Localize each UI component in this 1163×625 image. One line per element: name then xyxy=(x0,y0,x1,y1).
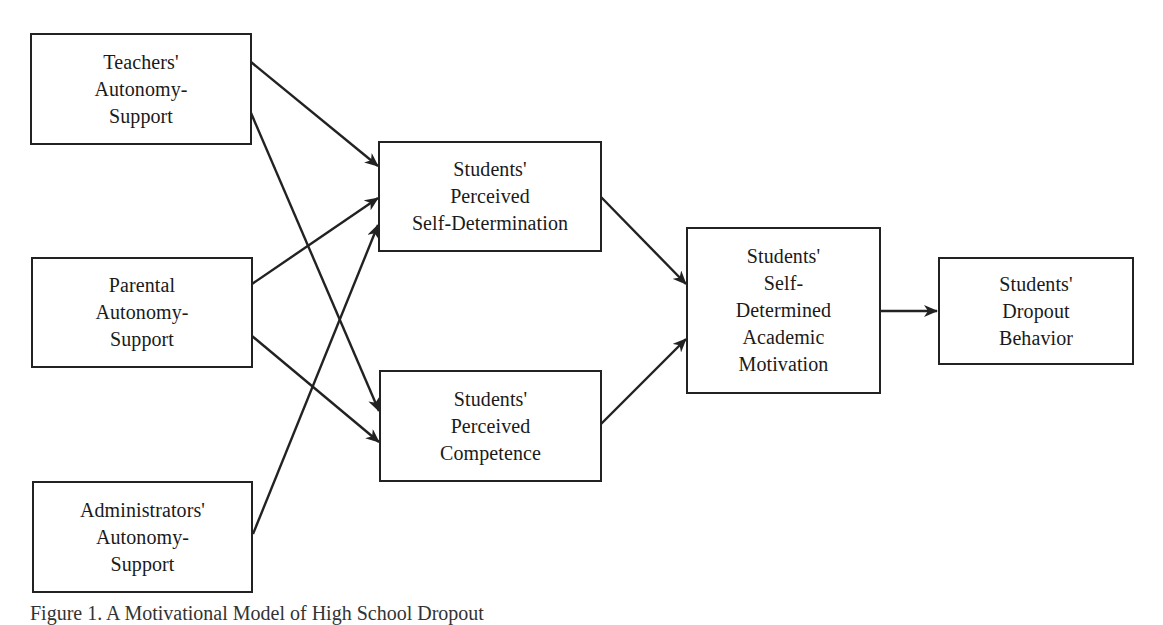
node-label-line: Support xyxy=(110,551,174,578)
node-teachers-autonomy-support: Teachers' Autonomy- Support xyxy=(30,33,252,145)
node-label-line: Academic xyxy=(743,324,825,351)
node-label-line: Autonomy- xyxy=(95,299,188,326)
arrow-parental-to-competence xyxy=(252,336,379,442)
node-label-line: Dropout xyxy=(1002,298,1069,325)
node-label-line: Autonomy- xyxy=(94,76,187,103)
node-label-line: Administrators' xyxy=(80,497,205,524)
arrow-parental-to-self-determination xyxy=(252,198,378,284)
node-label-line: Support xyxy=(109,103,173,130)
node-perceived-self-determination: Students' Perceived Self-Determination xyxy=(378,141,602,252)
node-label-line: Perceived xyxy=(451,413,531,440)
node-label-line: Motivation xyxy=(739,351,829,378)
arrow-teachers-to-self-determination xyxy=(251,62,378,166)
arrow-administrators-to-self-determination xyxy=(253,225,378,534)
node-self-determined-academic-motivation: Students' Self- Determined Academic Moti… xyxy=(686,227,881,394)
node-label-line: Students' xyxy=(453,156,526,183)
node-perceived-competence: Students' Perceived Competence xyxy=(379,370,602,482)
arrow-teachers-to-competence xyxy=(251,113,379,411)
node-label-line: Students' xyxy=(454,386,527,413)
node-label-line: Students' xyxy=(999,271,1072,298)
figure-caption: Figure 1. A Motivational Model of High S… xyxy=(30,601,484,625)
node-label-line: Students' xyxy=(747,243,820,270)
node-administrators-autonomy-support: Administrators' Autonomy- Support xyxy=(32,481,253,593)
node-label-line: Behavior xyxy=(999,325,1073,352)
arrow-self-determination-to-motivation xyxy=(601,197,686,284)
node-label-line: Teachers' xyxy=(103,49,178,76)
node-label-line: Perceived xyxy=(450,183,530,210)
node-label-line: Autonomy- xyxy=(96,524,189,551)
node-dropout-behavior: Students' Dropout Behavior xyxy=(938,257,1134,365)
node-label-line: Support xyxy=(110,326,174,353)
node-parental-autonomy-support: Parental Autonomy- Support xyxy=(31,257,253,368)
node-label-line: Self- xyxy=(764,270,803,297)
node-label-line: Self-Determination xyxy=(412,210,568,237)
arrow-competence-to-motivation xyxy=(601,339,686,424)
node-label-line: Determined xyxy=(736,297,831,324)
node-label-line: Competence xyxy=(440,440,541,467)
node-label-line: Parental xyxy=(109,272,175,299)
